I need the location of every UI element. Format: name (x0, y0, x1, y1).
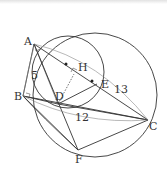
length-AB: 5 (31, 69, 38, 82)
segment-DC (58, 104, 148, 120)
label-C: C (149, 120, 157, 133)
length-AC: 13 (114, 83, 128, 96)
segment-DE (58, 84, 97, 104)
dot-midpoint-2 (91, 80, 94, 83)
label-D: D (55, 90, 64, 103)
segment-BD (23, 96, 58, 104)
geometry-diagram: A B C D E F H 5 12 13 (0, 0, 167, 169)
label-A: A (23, 35, 33, 48)
label-H: H (78, 61, 88, 74)
label-B: B (14, 90, 22, 103)
length-BC: 12 (75, 111, 89, 124)
right-angle-H (71, 68, 77, 72)
inner-circle (32, 36, 104, 108)
dot-midpoint-1 (65, 63, 68, 66)
segment-FC (78, 120, 148, 150)
label-F: F (75, 153, 83, 166)
label-E: E (101, 78, 109, 91)
circumcircle (33, 33, 157, 157)
